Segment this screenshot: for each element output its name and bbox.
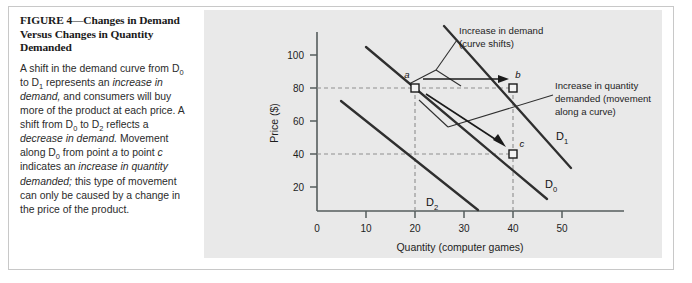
x-tick-20: 20 [409,223,421,234]
anno-demand-line2: (curve shifts) [459,38,514,49]
x-tick-30: 30 [458,223,470,234]
curve-label-d2: D [426,196,434,208]
movement-arrow-a-to-c [426,94,506,147]
x-axis-title: Quantity (computer games) [396,241,523,253]
anno-demand-leader-2 [409,70,436,84]
y-axis-ticks [310,55,317,187]
figure-caption-body: A shift in the demand curve from D0 to D… [20,62,192,217]
anno-qty-line3: along a curve) [555,106,616,117]
annotation-increase-in-demand: Increase in demand (curve shifts) [409,25,543,86]
figure-root: FIGURE 4—Changes in Demand Versus Change… [0,0,692,283]
anno-demand-leader-3 [436,70,461,86]
figure-caption: FIGURE 4—Changes in Demand Versus Change… [20,14,192,217]
x-tick-50: 50 [556,223,568,234]
curve-label-d0: D [545,178,553,190]
x-tick-origin: 0 [314,223,320,234]
y-tick-40: 40 [293,149,305,160]
y-tick-80: 80 [293,83,305,94]
x-tick-10: 10 [360,223,372,234]
figure-title-dash: — [72,14,83,26]
shift-arrow-a-to-b [423,75,509,83]
y-axis-tick-labels: 100 80 60 40 20 [287,50,304,193]
anno-qty-line1: Increase in quantity [555,80,638,91]
y-axis-title: Price ($) [268,103,280,143]
curve-d2 [341,101,478,210]
chart-panel: 100 80 60 40 20 0 10 20 30 40 50 [204,10,662,258]
point-marker-b [509,84,517,92]
point-label-a: a [404,69,409,80]
y-tick-100: 100 [287,50,304,61]
demand-curves [341,26,571,210]
anno-demand-leader-1 [436,40,457,70]
x-tick-40: 40 [507,223,519,234]
x-axis-tick-labels: 0 10 20 30 40 50 [314,223,568,234]
point-marker-a [411,84,419,92]
anno-demand-line1: Increase in demand [459,25,543,36]
anno-qty-leader-1 [448,95,553,127]
curve-label-d2-sub: 2 [434,203,438,212]
curve-label-d1-sub: 1 [564,137,568,146]
y-tick-60: 60 [293,116,305,127]
x-axis-ticks [366,211,562,218]
point-label-b: b [515,69,521,80]
y-tick-20: 20 [293,182,305,193]
curve-label-d1: D [556,130,564,142]
curve-label-d0-sub: 0 [553,185,557,194]
chart-axes [317,32,624,211]
point-label-c: c [520,138,525,149]
anno-qty-line2: demanded (movement [555,93,651,104]
data-points: a b c [404,69,524,158]
point-marker-c [509,150,517,158]
figure-title: FIGURE 4—Changes in Demand Versus Change… [20,14,192,55]
demand-curve-chart: 100 80 60 40 20 0 10 20 30 40 50 [204,10,662,258]
figure-title-prefix: FIGURE 4 [20,14,72,26]
